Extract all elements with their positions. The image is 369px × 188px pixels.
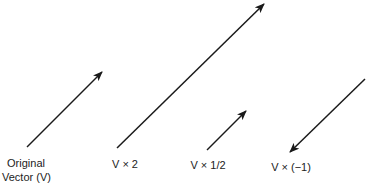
label-times-half: V × 1/2 xyxy=(185,158,231,172)
label-times-neg1: V × (−1) xyxy=(268,160,314,174)
vector-arrow-times-half xyxy=(207,111,246,150)
label-original-line2: Vector (V) xyxy=(2,170,50,184)
vector-arrow-times-2 xyxy=(117,4,264,148)
label-original: Original Vector (V) xyxy=(2,156,50,184)
label-times-2: V × 2 xyxy=(105,157,145,171)
vector-arrow-times-neg1 xyxy=(290,79,365,152)
vector-arrow-original xyxy=(27,72,102,147)
label-original-line1: Original xyxy=(2,156,50,170)
